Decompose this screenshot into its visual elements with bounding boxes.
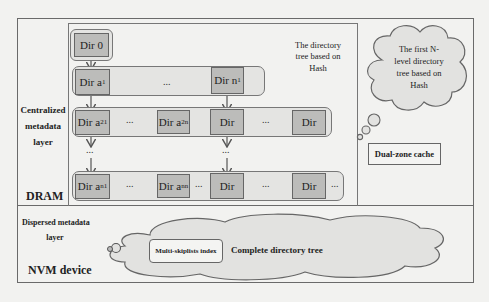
dram-label: DRAM [26, 188, 63, 204]
dir-node-ann[interactable]: Dir ann [157, 174, 190, 198]
dir-node-an1[interactable]: Dir an1 [75, 174, 110, 199]
vertical-ellipsis-left: ... [86, 144, 94, 155]
layer-label-line: layer [0, 230, 112, 245]
dir-node-a21[interactable]: Dir a21 [75, 110, 110, 135]
row-2-ellipsis-b: ... [262, 114, 270, 125]
node-sub: 1 [237, 77, 241, 84]
node-name: Dir [302, 117, 317, 128]
node-name: Dir a [78, 117, 100, 128]
row-2-ellipsis-a: ... [126, 114, 134, 125]
dual-zone-cache-box[interactable]: Dual-zone cache [368, 143, 441, 165]
node-name: Dir [80, 40, 95, 51]
dispersed-metadata-layer-label: Dispersed metadata layer [22, 215, 112, 245]
dir-node-a1[interactable]: Dir a1 [75, 69, 110, 95]
dir-node-n1[interactable]: Dir n1 [211, 67, 244, 94]
cache-cloud-text: The first N- level directory tree based … [380, 44, 458, 92]
row-3-ellipsis-b: ... [262, 178, 270, 189]
layer-label-line: Centralized [18, 104, 68, 116]
dir-node-root[interactable]: Dir 0 [74, 33, 109, 57]
cloud-line: tree based on [380, 68, 458, 80]
node-name: Dir a [159, 117, 181, 128]
caption-line: Hash [288, 63, 348, 74]
node-name: Dir a [159, 181, 181, 192]
dir-node-row3-d[interactable]: Dir [292, 173, 326, 199]
row-3-ellipsis-mid: ... [195, 178, 203, 189]
caption-line: The directory [288, 40, 348, 51]
node-name: Dir [220, 181, 235, 192]
cloud-line: The first N- [380, 44, 458, 56]
dir-node-row3-c[interactable]: Dir [210, 173, 244, 199]
dir-node-a2n[interactable]: Dir a2n [157, 110, 190, 134]
tree-caption: The directory tree based on Hash [288, 40, 348, 74]
nvm-device-label: NVM device [28, 262, 92, 278]
node-sub: 2n [181, 119, 188, 126]
layer-label-line: metadata [18, 120, 68, 132]
row-3-ellipsis-a: ... [126, 178, 134, 189]
node-sub: 1 [102, 79, 106, 86]
caption-line: tree based on [288, 51, 348, 62]
node-sub: 0 [97, 40, 103, 51]
node-sub: nn [181, 183, 188, 190]
row-1-ellipsis: ... [163, 76, 171, 87]
dir-node-row2-d[interactable]: Dir [292, 110, 326, 135]
layer-label-line: layer [18, 136, 68, 148]
node-sub: 21 [100, 119, 107, 126]
centralized-metadata-layer-label: Centralized metadata layer [18, 104, 68, 148]
node-sub: n1 [100, 183, 107, 190]
node-name: Dir a [80, 77, 102, 88]
row-3-ellipsis-end: ... [331, 178, 339, 189]
node-name: Dir n [214, 75, 237, 86]
multi-skiplists-index-box[interactable]: Multi-skiplists index [149, 239, 223, 263]
node-name: Dir a [78, 181, 100, 192]
vertical-ellipsis-right: ... [222, 144, 230, 155]
cloud-line: Hash [380, 80, 458, 92]
dir-node-row2-c[interactable]: Dir [210, 109, 244, 135]
cloud-line: level directory [380, 56, 458, 68]
complete-directory-tree-label: Complete directory tree [231, 245, 323, 255]
node-name: Dir [302, 181, 317, 192]
layer-label-line: Dispersed metadata [22, 215, 112, 230]
node-name: Dir [220, 117, 235, 128]
